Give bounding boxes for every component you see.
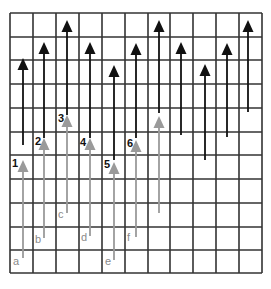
black-arrow: [200, 64, 211, 160]
number-label: 3: [58, 112, 64, 124]
letter-label: b: [35, 233, 41, 245]
arrow-head-icon: [222, 43, 233, 55]
arrow-head-icon: [109, 65, 120, 77]
black-arrow: [62, 20, 73, 115]
letter-label: c: [58, 208, 64, 220]
black-arrow: [243, 20, 254, 112]
number-label: 1: [12, 157, 18, 169]
black-arrow: [222, 43, 233, 137]
black-arrow: [85, 42, 96, 138]
black-arrow: [154, 20, 165, 113]
arrow-head-icon: [131, 43, 142, 55]
number-label: 4: [80, 136, 87, 148]
arrow-head-icon: [154, 20, 165, 32]
number-label: 5: [104, 158, 110, 170]
arrow-head-icon: [18, 160, 29, 172]
number-label: 6: [127, 137, 133, 149]
arrow-head-icon: [154, 116, 165, 128]
arrow-head-icon: [62, 20, 73, 32]
black-arrow: [109, 65, 120, 160]
letter-label: f: [127, 231, 131, 243]
letter-label: e: [105, 255, 111, 267]
arrow-head-icon: [85, 42, 96, 54]
arrow-head-icon: [109, 162, 120, 174]
arrow-head-icon: [39, 42, 50, 54]
arrow-head-icon: [200, 64, 211, 76]
black-arrow: [39, 42, 50, 138]
gray-arrow: [109, 162, 120, 260]
letter-label: d: [81, 231, 87, 243]
gray-arrow: [62, 115, 73, 213]
arrow-head-icon: [176, 42, 187, 54]
arrow-head-icon: [85, 138, 96, 150]
arrow-grid-diagram: 123456abcdef: [0, 0, 271, 289]
letter-label: a: [13, 255, 20, 267]
gray-arrow: [85, 138, 96, 236]
black-arrow: [176, 42, 187, 135]
label-group: 123456abcdef: [12, 112, 133, 267]
arrow-head-icon: [243, 20, 254, 32]
black-arrow: [131, 43, 142, 138]
gray-arrow: [39, 138, 50, 238]
black-arrow-group: [18, 20, 254, 160]
gray-arrow: [18, 160, 29, 258]
gray-arrow: [154, 116, 165, 213]
number-label: 2: [35, 135, 41, 147]
